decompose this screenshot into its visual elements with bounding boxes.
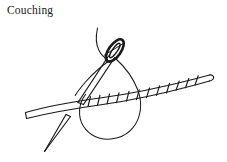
couching-stitch (98, 95, 101, 105)
second-needle-point-top (66, 115, 71, 117)
figure-root: Couching (0, 0, 227, 162)
couching-stitch (107, 94, 110, 104)
laid-thread-upper-edge (26, 75, 210, 113)
couching-stitch (195, 76, 198, 85)
second-needle-point-edge-b (45, 115, 67, 152)
needle-shaft-left-edge (78, 56, 109, 103)
working-thread-loop (79, 58, 140, 140)
needle-eye-inner (108, 42, 122, 59)
couching-stitch (117, 93, 120, 103)
laid-thread-lower-edge (27, 81, 210, 119)
couching-stitch-illustration (0, 0, 227, 162)
second-needle-point-edge-a (45, 117, 71, 152)
laid-thread-left-end (26, 113, 27, 119)
laid-thread-right-tip (210, 75, 214, 81)
needle-eye (102, 36, 127, 64)
